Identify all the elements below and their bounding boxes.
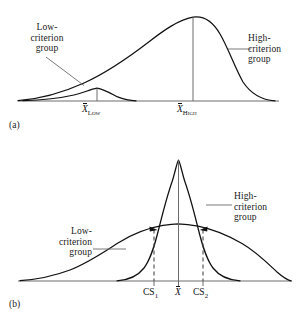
panel-b-mean-tick-label: X bbox=[175, 287, 181, 297]
panel-b-tag: (b) bbox=[9, 299, 20, 309]
panel-b-low-group-label: Low- criterion group bbox=[32, 226, 92, 258]
figure-container: Low- criterion group High- criterion gro… bbox=[0, 0, 307, 314]
panel-b-high-group-label: High- criterion group bbox=[234, 191, 292, 223]
panel-b-graphics bbox=[0, 0, 307, 314]
panel-b-cs1-tick-label: CS1 bbox=[143, 287, 158, 299]
panel-b-cs2-tick-label: CS2 bbox=[193, 287, 208, 299]
